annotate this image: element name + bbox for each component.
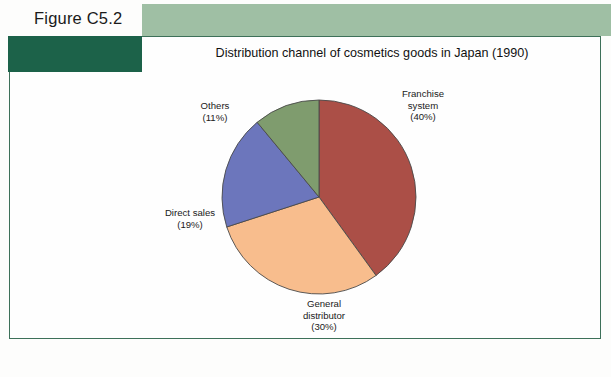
slice-label-franchise-pct: (40%) bbox=[388, 111, 458, 123]
slice-label-general-line2: distributor bbox=[279, 310, 369, 322]
slice-label-direct-sales-line1: Direct sales bbox=[150, 207, 230, 219]
slice-label-others-pct: (11%) bbox=[185, 112, 245, 124]
slice-label-direct-sales: Direct sales (19%) bbox=[150, 207, 230, 230]
pie-chart-area bbox=[9, 36, 601, 339]
pie-slice-group bbox=[222, 100, 416, 294]
slice-label-general-line1: General bbox=[279, 298, 369, 310]
slice-label-others: Others (11%) bbox=[185, 100, 245, 123]
slice-label-general-pct: (30%) bbox=[279, 321, 369, 333]
slice-label-direct-sales-pct: (19%) bbox=[150, 219, 230, 231]
header-banner-light bbox=[142, 4, 611, 36]
slice-label-general: General distributor (30%) bbox=[279, 298, 369, 333]
slice-label-franchise: Franchise system (40%) bbox=[388, 88, 458, 123]
slice-label-franchise-line1: Franchise bbox=[388, 88, 458, 100]
slice-label-others-line1: Others bbox=[185, 100, 245, 112]
slice-label-franchise-line2: system bbox=[388, 100, 458, 112]
figure-root: Figure C5.2 Distribution channel of cosm… bbox=[0, 0, 611, 377]
pie-chart-svg bbox=[9, 36, 601, 339]
figure-number-label: Figure C5.2 bbox=[34, 5, 142, 32]
